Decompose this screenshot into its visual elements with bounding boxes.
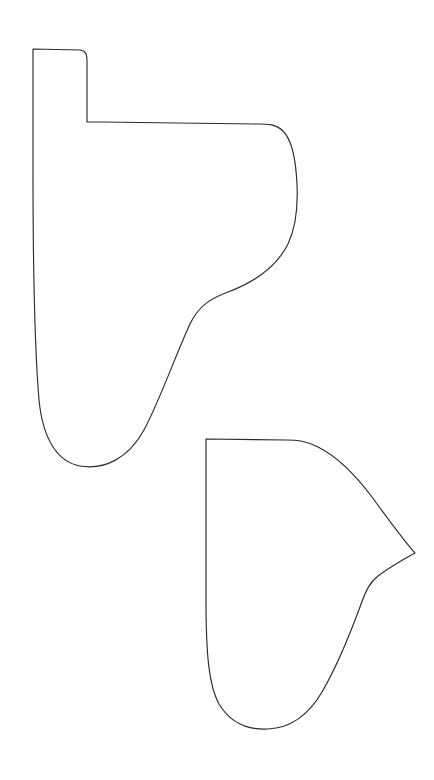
pattern-outline-svg (0, 0, 434, 780)
drawing-canvas (0, 0, 434, 780)
sheet-background (0, 0, 434, 780)
